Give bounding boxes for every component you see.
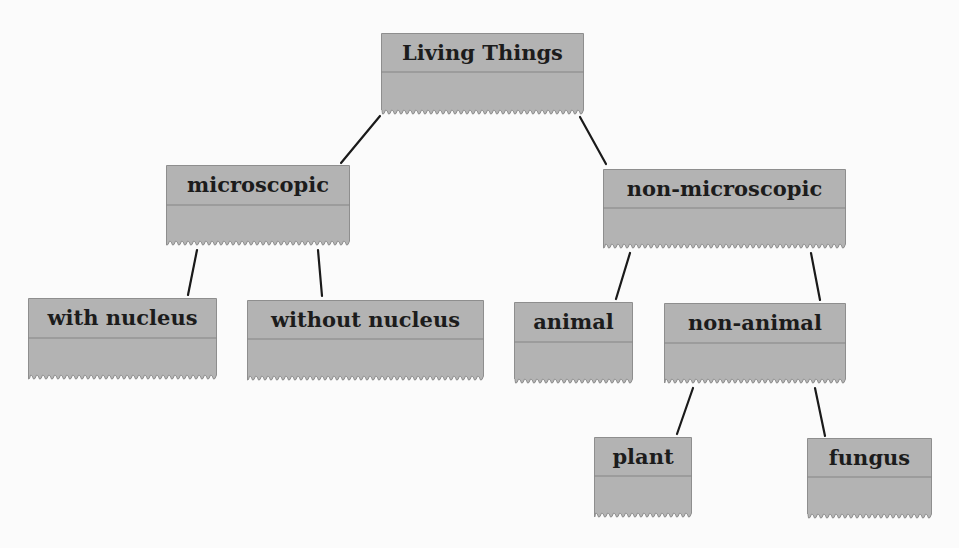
node-fungus: fungus xyxy=(807,438,932,521)
connector-non-microscopic-to-non-animal xyxy=(811,253,820,300)
connector-microscopic-to-without-nucleus xyxy=(318,250,322,296)
node-label: without nucleus xyxy=(247,300,484,339)
connector-non-microscopic-to-animal xyxy=(616,253,630,299)
node-label: microscopic xyxy=(166,165,350,205)
node-living-things: Living Things xyxy=(381,33,584,117)
node-microscopic: microscopic xyxy=(166,165,350,248)
node-plant: plant xyxy=(594,437,692,520)
node-label: animal xyxy=(514,302,633,342)
classification-diagram: Living Things microscopic non-microscopi… xyxy=(0,0,959,548)
node-label: plant xyxy=(594,437,692,476)
node-label: Living Things xyxy=(381,33,584,72)
connector-living-things-to-microscopic xyxy=(341,116,380,163)
node-label: fungus xyxy=(807,438,932,477)
node-non-microscopic: non-microscopic xyxy=(603,169,846,251)
connector-non-animal-to-plant xyxy=(677,388,693,434)
connector-microscopic-to-with-nucleus xyxy=(188,250,197,295)
node-with-nucleus: with nucleus xyxy=(28,298,217,382)
node-label: with nucleus xyxy=(28,298,217,338)
connector-non-animal-to-fungus xyxy=(815,388,825,436)
node-without-nucleus: without nucleus xyxy=(247,300,484,383)
node-non-animal: non-animal xyxy=(664,303,846,386)
node-label: non-microscopic xyxy=(603,169,846,208)
node-label: non-animal xyxy=(664,303,846,343)
node-animal: animal xyxy=(514,302,633,386)
connector-living-things-to-non-microscopic xyxy=(580,117,606,164)
